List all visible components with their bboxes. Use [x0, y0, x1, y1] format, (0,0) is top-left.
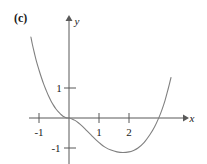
y-tick-label--1: -1	[51, 142, 60, 154]
y-axis-arrow-icon	[66, 15, 73, 21]
figure-panel: (c) -1 1 2 1 -1 x y	[0, 0, 207, 164]
x-tick-label--1: -1	[34, 126, 43, 138]
graph-plot: -1 1 2 1 -1 x y	[0, 0, 207, 164]
y-axis-label: y	[74, 15, 80, 27]
y-tick-label-1: 1	[56, 82, 62, 94]
x-axis-arrow-icon	[183, 115, 189, 122]
x-axis-label: x	[189, 112, 195, 124]
x-tick-label-1: 1	[96, 126, 102, 138]
x-tick-label-2: 2	[126, 126, 132, 138]
